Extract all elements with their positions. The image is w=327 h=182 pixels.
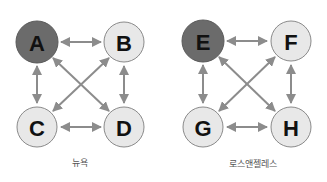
node-h: H bbox=[271, 107, 311, 147]
svg-text:A: A bbox=[29, 31, 45, 56]
svg-text:C: C bbox=[29, 116, 45, 141]
node-d: D bbox=[104, 107, 144, 147]
svg-text:F: F bbox=[284, 30, 297, 55]
node-b: B bbox=[104, 22, 144, 62]
node-e: E bbox=[182, 20, 224, 62]
svg-text:H: H bbox=[283, 116, 299, 141]
svg-text:D: D bbox=[116, 116, 132, 141]
node-g: G bbox=[183, 107, 223, 147]
svg-text:G: G bbox=[194, 116, 211, 141]
node-c: C bbox=[17, 107, 57, 147]
node-a: A bbox=[16, 21, 58, 63]
svg-text:E: E bbox=[196, 30, 211, 55]
node-f: F bbox=[271, 21, 311, 61]
svg-text:B: B bbox=[116, 31, 132, 56]
caption-new-york: 뉴욕 bbox=[72, 156, 88, 169]
caption-los-angeles: 로스앤젤레스 bbox=[229, 157, 277, 170]
network-diagram: A B C D E F G H bbox=[0, 0, 327, 182]
